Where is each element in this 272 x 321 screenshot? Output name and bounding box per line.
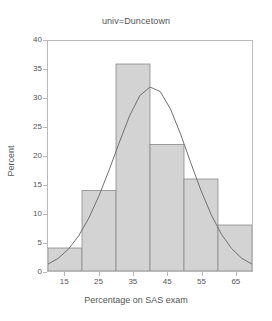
y-axis-tick-mark bbox=[43, 272, 47, 273]
chart-title: univ=Duncetown bbox=[0, 16, 272, 26]
y-axis-tick-labels: 0510152025303540 bbox=[18, 40, 42, 272]
x-axis-tick-mark bbox=[236, 272, 237, 276]
x-axis-tick-mark bbox=[133, 272, 134, 276]
x-axis-tick-label: 15 bbox=[51, 278, 77, 286]
y-axis-tick-label: 25 bbox=[20, 123, 42, 131]
histogram-bars bbox=[48, 64, 252, 271]
x-axis-title: Percentage on SAS exam bbox=[0, 295, 272, 305]
x-axis-tick-mark bbox=[64, 272, 65, 276]
y-axis-tick-mark bbox=[43, 243, 47, 244]
histogram-bar bbox=[48, 248, 82, 271]
y-axis-tick-label: 30 bbox=[20, 94, 42, 102]
plot-svg bbox=[48, 41, 252, 271]
x-axis-tick-labels: 152535455565 bbox=[0, 278, 272, 290]
y-axis-tick-mark bbox=[43, 214, 47, 215]
y-axis-tick-mark bbox=[43, 127, 47, 128]
histogram-bar bbox=[116, 64, 150, 271]
y-axis-tick-mark bbox=[43, 40, 47, 41]
y-axis-tick-label: 35 bbox=[20, 65, 42, 73]
y-axis-tick-label: 10 bbox=[20, 210, 42, 218]
x-axis-tick-mark bbox=[99, 272, 100, 276]
chart-figure: univ=Duncetown Percent 0510152025303540 … bbox=[0, 0, 272, 321]
y-axis-tick-label: 0 bbox=[20, 268, 42, 276]
histogram-bar bbox=[218, 225, 252, 271]
x-axis-tick-label: 35 bbox=[120, 278, 146, 286]
y-axis-tick-label: 40 bbox=[20, 36, 42, 44]
y-axis-title: Percent bbox=[6, 131, 16, 191]
plot-area bbox=[47, 40, 253, 272]
x-axis-tick-label: 25 bbox=[86, 278, 112, 286]
x-axis-tick-label: 45 bbox=[154, 278, 180, 286]
y-axis-tick-mark bbox=[43, 69, 47, 70]
y-axis-tick-mark bbox=[43, 98, 47, 99]
y-axis-tick-label: 15 bbox=[20, 181, 42, 189]
histogram-bar bbox=[184, 179, 218, 271]
y-axis-tick-label: 5 bbox=[20, 239, 42, 247]
y-axis-tick-label: 20 bbox=[20, 152, 42, 160]
y-axis-tick-mark bbox=[43, 185, 47, 186]
y-axis-tick-mark bbox=[43, 156, 47, 157]
histogram-bar bbox=[150, 145, 184, 272]
x-axis-tick-mark bbox=[202, 272, 203, 276]
x-axis-tick-label: 65 bbox=[223, 278, 249, 286]
x-axis-tick-mark bbox=[167, 272, 168, 276]
histogram-bar bbox=[82, 191, 116, 272]
x-axis-tick-label: 55 bbox=[189, 278, 215, 286]
